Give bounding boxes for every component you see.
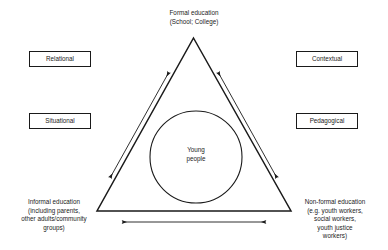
box-contextual: Contextual [296,51,358,67]
box-pedagogical: Pedagogical [296,113,358,129]
box-situational-label: Situational [45,117,74,125]
triangle-outline [97,38,291,211]
box-situational: Situational [29,113,91,129]
right-edge-arrow [218,72,277,178]
formal-education-label: Formal education (School; College) [144,9,244,26]
box-pedagogical-label: Pedagogical [310,117,345,125]
box-relational: Relational [29,51,91,67]
left-edge-arrow [110,72,169,178]
informal-education-label: Informal education (including parents, o… [2,198,106,232]
young-people-label: Young people [166,146,226,163]
box-contextual-label: Contextual [312,55,342,63]
diagram-root: Formal education (School; College) Infor… [0,0,388,250]
non-formal-education-label: Non-formal education (e.g. youth workers… [283,198,387,241]
box-relational-label: Relational [46,55,74,63]
